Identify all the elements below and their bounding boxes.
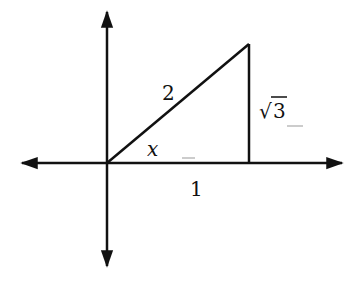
svg-text:3: 3	[273, 99, 286, 123]
adjacent-label: 1	[190, 177, 203, 201]
angle-label: x	[147, 137, 158, 161]
svg-text:√: √	[259, 99, 272, 123]
hypotenuse	[107, 44, 249, 163]
opposite-label: √ 3	[259, 97, 287, 123]
hypotenuse-label: 2	[162, 81, 175, 105]
triangle-diagram: 2 √ 3 x 1	[0, 0, 345, 283]
